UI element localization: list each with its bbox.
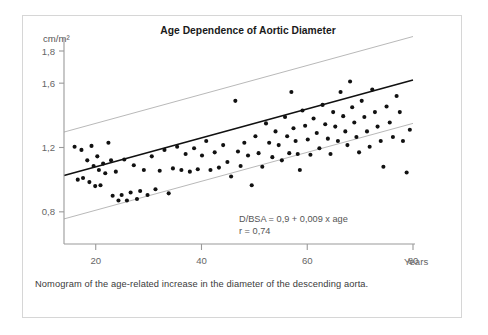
scatter-point: [158, 169, 162, 173]
scatter-point: [95, 154, 99, 158]
scatter-point: [233, 99, 237, 103]
scatter-point: [303, 124, 307, 128]
scatter-point: [246, 153, 250, 157]
scatter-point: [360, 99, 364, 103]
scatter-point: [253, 134, 257, 138]
scatter-point: [217, 166, 221, 170]
scatter-point: [106, 141, 110, 145]
scatter-point: [289, 90, 293, 94]
y-tick-label: 1,2: [42, 142, 55, 153]
regression-line: [64, 80, 413, 176]
figure-caption: Nomogram of the age-related increase in …: [35, 278, 453, 291]
scatter-point: [298, 168, 302, 172]
scatter-point: [308, 153, 312, 157]
scatter-point: [213, 150, 217, 154]
scatter-point: [150, 154, 154, 158]
scatter-point: [341, 114, 345, 118]
scatter-point: [167, 191, 171, 195]
x-axis-unit-label: Years: [404, 256, 428, 267]
scatter-point: [306, 137, 310, 141]
scatter-point: [273, 129, 277, 133]
regression-equation-text: D/BSA = 0,9 + 0,009 x age: [239, 214, 348, 224]
scatter-point: [326, 137, 330, 141]
scatter-point: [242, 141, 246, 145]
chart-region: Age Dependence of Aortic Diameter cm/m² …: [23, 16, 461, 274]
scatter-point: [270, 155, 274, 159]
scatter-point: [76, 178, 80, 182]
scatter-point: [285, 134, 289, 138]
scatter-point: [116, 199, 120, 203]
scatter-point: [357, 150, 361, 154]
x-tick-label: 60: [302, 255, 313, 266]
scatter-point: [111, 194, 115, 198]
scatter-point: [395, 94, 399, 98]
scatter-point: [345, 143, 349, 147]
figure-card: Age Dependence of Aortic Diameter cm/m² …: [22, 15, 462, 318]
scatter-point: [236, 149, 240, 153]
scatter-point: [239, 164, 243, 168]
scatter-point: [317, 146, 321, 150]
x-tick-label: 20: [90, 255, 101, 266]
regression-line-group: [64, 80, 413, 176]
scatter-point: [120, 193, 124, 197]
scatter-point: [376, 125, 380, 129]
scatter-point: [315, 131, 319, 135]
y-tick-label: 1,6: [42, 78, 55, 89]
scatter-point: [267, 141, 271, 145]
scatter-point: [381, 165, 385, 169]
scatter-point: [221, 143, 225, 147]
scatter-point: [365, 129, 369, 133]
scatter-point: [323, 122, 327, 126]
scatter-point: [352, 121, 356, 125]
scatter-point: [81, 176, 85, 180]
scatter-point: [85, 158, 89, 162]
scatter-point: [79, 148, 83, 152]
scatter-point: [97, 168, 101, 172]
scatter-point: [354, 135, 358, 139]
scatter-point: [73, 145, 77, 149]
scatter-point: [208, 168, 212, 172]
scatter-point: [312, 117, 316, 121]
scatter-point: [138, 189, 142, 193]
scatter-point: [385, 104, 389, 108]
scatter-point: [368, 145, 372, 149]
scatter-point: [401, 139, 405, 143]
scatter-point: [87, 180, 91, 184]
scatter-point: [184, 152, 188, 156]
scatter-plot-svg: Age Dependence of Aortic Diameter cm/m² …: [23, 16, 461, 274]
y-axis-unit-label: cm/m²: [43, 33, 70, 44]
scatter-point: [362, 115, 366, 119]
scatter-point: [333, 125, 337, 129]
scatter-point: [336, 139, 340, 143]
scatter-point: [398, 110, 402, 114]
scatter-point: [257, 151, 261, 155]
scatter-point: [192, 146, 196, 150]
scatter-point: [391, 135, 395, 139]
scatter-point: [188, 170, 192, 174]
scatter-point: [331, 110, 335, 114]
scatter-point: [343, 129, 347, 133]
scatter-point: [135, 197, 139, 201]
scatter-point: [408, 128, 412, 132]
scatter-point: [204, 139, 208, 143]
chart-title: Age Dependence of Aortic Diameter: [160, 25, 335, 36]
y-tick-label: 1,8: [42, 46, 55, 57]
scatter-point: [294, 139, 298, 143]
scatter-point: [146, 193, 150, 197]
correlation-coefficient-text: r = 0,74: [239, 226, 270, 236]
x-axis-ticks-group: 20406080: [90, 244, 418, 266]
scatter-point: [260, 165, 264, 169]
axes-group: [64, 37, 415, 244]
scatter-point: [373, 110, 377, 114]
scatter-point: [225, 160, 229, 164]
scatter-points-group: [73, 80, 412, 203]
scatter-point: [291, 126, 295, 130]
scatter-point: [153, 187, 157, 191]
scatter-point: [132, 163, 136, 167]
scatter-point: [229, 174, 233, 178]
y-tick-label: 0,8: [42, 206, 55, 217]
scatter-point: [142, 168, 146, 172]
scatter-point: [277, 143, 281, 147]
x-tick-label: 40: [196, 255, 207, 266]
scatter-point: [328, 152, 332, 156]
